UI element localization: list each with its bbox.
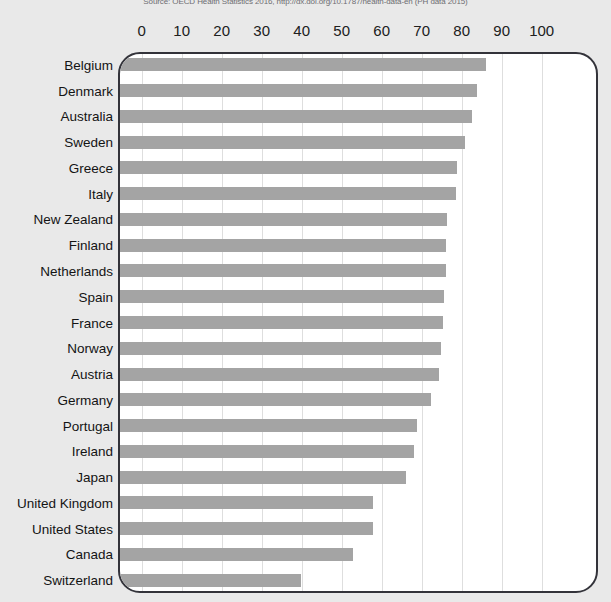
x-tick-label: 90 [493, 22, 510, 39]
y-tick-label: Australia [0, 109, 113, 124]
y-tick-label: United Kingdom [0, 495, 113, 510]
chart-source-caption: Source: OECD Health Statistics 2016, htt… [0, 0, 611, 8]
bar [118, 316, 443, 329]
y-tick-label: Italy [0, 186, 113, 201]
y-tick-label: France [0, 315, 113, 330]
y-tick-label: Japan [0, 470, 113, 485]
y-tick-label: Spain [0, 289, 113, 304]
plot-area [118, 52, 598, 593]
bar [118, 264, 446, 277]
x-tick-label: 30 [253, 22, 270, 39]
bar [118, 548, 353, 561]
chart-figure: Source: OECD Health Statistics 2016, htt… [0, 0, 611, 602]
x-tick-label: 0 [138, 22, 146, 39]
bar [118, 136, 465, 149]
y-tick-label: Portugal [0, 418, 113, 433]
y-tick-label: New Zealand [0, 212, 113, 227]
bar [118, 522, 373, 535]
bar [118, 419, 417, 432]
gridline [502, 54, 503, 591]
bar [118, 290, 444, 303]
x-axis-tick-labels: 0102030405060708090100 [0, 22, 611, 44]
bar [118, 58, 486, 71]
y-axis-category-labels: BelgiumDenmarkAustraliaSwedenGreeceItaly… [0, 52, 113, 593]
gridline [462, 54, 463, 591]
bar [118, 110, 472, 123]
bar [118, 187, 456, 200]
x-tick-label: 60 [373, 22, 390, 39]
y-tick-label: Germany [0, 392, 113, 407]
y-tick-label: Greece [0, 160, 113, 175]
bar [118, 574, 301, 587]
x-tick-label: 70 [413, 22, 430, 39]
bar [118, 496, 373, 509]
bar [118, 445, 414, 458]
x-tick-label: 40 [293, 22, 310, 39]
bar [118, 368, 439, 381]
bar [118, 239, 446, 252]
x-tick-label: 100 [529, 22, 554, 39]
y-tick-label: Canada [0, 547, 113, 562]
bar [118, 213, 447, 226]
y-tick-label: Netherlands [0, 263, 113, 278]
y-tick-label: Ireland [0, 444, 113, 459]
x-tick-label: 10 [173, 22, 190, 39]
gridline [542, 54, 543, 591]
x-tick-label: 20 [213, 22, 230, 39]
y-tick-label: Switzerland [0, 573, 113, 588]
y-tick-label: United States [0, 521, 113, 536]
y-tick-label: Austria [0, 367, 113, 382]
bar [118, 471, 406, 484]
x-tick-label: 50 [333, 22, 350, 39]
y-tick-label: Sweden [0, 135, 113, 150]
bar [118, 393, 431, 406]
bar [118, 84, 477, 97]
bar [118, 342, 441, 355]
x-tick-label: 80 [453, 22, 470, 39]
bar [118, 161, 457, 174]
y-tick-label: Belgium [0, 57, 113, 72]
y-tick-label: Finland [0, 238, 113, 253]
y-tick-label: Denmark [0, 83, 113, 98]
y-tick-label: Norway [0, 341, 113, 356]
